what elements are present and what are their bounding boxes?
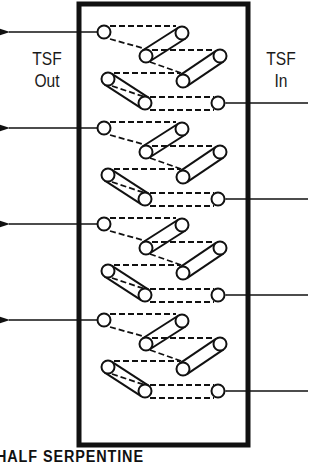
tsf-in-label: TSF In: [261, 48, 302, 92]
diagram-caption: HALF SERPENTINE: [0, 448, 144, 466]
outlet-port-icon: [98, 122, 111, 135]
tube-end-icon: [140, 146, 153, 159]
tube-end-icon: [214, 242, 227, 255]
tube-end-icon: [214, 50, 227, 63]
tube-end-icon: [177, 171, 190, 184]
tube-wall: [187, 157, 224, 182]
outlet-port-icon: [98, 26, 111, 39]
inlet-port-icon: [212, 193, 225, 206]
inlet-port-icon: [212, 289, 225, 302]
tube-wall: [187, 349, 224, 374]
dashed-connector: [110, 327, 146, 337]
tube-end-icon: [139, 385, 152, 398]
tube-end-icon: [102, 265, 115, 278]
tube-wall: [179, 147, 216, 172]
dashed-connector: [110, 39, 146, 49]
tube-end-icon: [139, 193, 152, 206]
tsf-in-line2: In: [261, 70, 302, 92]
tube-end-icon: [177, 75, 190, 88]
tube-wall: [104, 372, 141, 396]
tube-wall: [104, 276, 141, 300]
tube-end-icon: [140, 338, 153, 351]
tube-wall: [179, 339, 216, 364]
tsf-out-line2: Out: [27, 70, 68, 92]
dashed-connector: [110, 231, 146, 241]
tube-end-icon: [176, 315, 189, 328]
tsf-out-line1: TSF: [27, 48, 68, 70]
tube-end-icon: [214, 338, 227, 351]
tsf-out-label: TSF Out: [27, 48, 68, 92]
tube-wall: [187, 253, 224, 278]
tube-end-icon: [176, 123, 189, 136]
tube-wall: [112, 170, 149, 194]
tsf-in-line1: TSF: [261, 48, 302, 70]
outlet-port-icon: [98, 218, 111, 231]
inlet-port-icon: [212, 97, 225, 110]
tube-end-icon: [214, 146, 227, 159]
tube-wall: [112, 362, 149, 386]
tube-end-icon: [139, 289, 152, 302]
dashed-connector: [110, 135, 146, 145]
tube-wall: [179, 51, 216, 76]
tube-end-icon: [102, 73, 115, 86]
tube-wall: [179, 243, 216, 268]
tube-end-icon: [177, 363, 190, 376]
tube-wall: [112, 266, 149, 290]
tube-end-icon: [140, 50, 153, 63]
tube-end-icon: [102, 169, 115, 182]
outlet-port-icon: [98, 314, 111, 327]
tube-wall: [104, 84, 141, 108]
tube-end-icon: [139, 97, 152, 110]
tube-wall: [104, 180, 141, 204]
tube-end-icon: [176, 219, 189, 232]
inlet-port-icon: [212, 385, 225, 398]
tube-wall: [112, 74, 149, 98]
tube-end-icon: [176, 27, 189, 40]
tube-wall: [187, 61, 224, 86]
tube-end-icon: [177, 267, 190, 280]
tube-end-icon: [140, 242, 153, 255]
tube-end-icon: [102, 361, 115, 374]
